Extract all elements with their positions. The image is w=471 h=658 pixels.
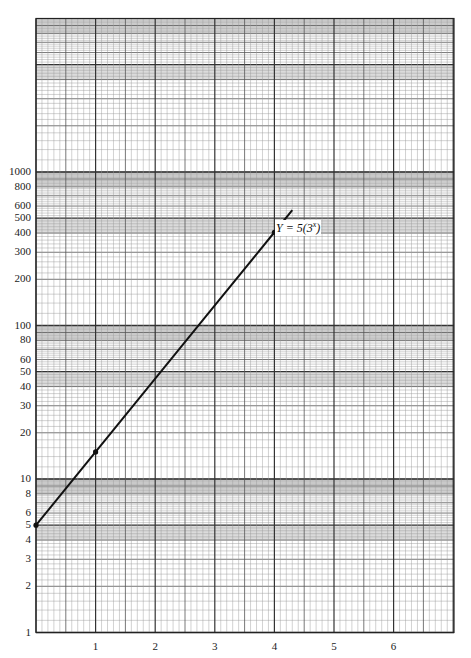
y-tick-label: 2 — [1, 580, 31, 591]
x-tick-label: 1 — [86, 641, 106, 652]
data-point-marker — [33, 523, 38, 528]
x-tick-label: 4 — [264, 641, 284, 652]
y-tick-label: 8 — [1, 488, 31, 499]
y-tick-label: 4 — [1, 534, 31, 545]
y-tick-label: 1 — [1, 627, 31, 638]
y-tick-label: 200 — [1, 273, 31, 284]
semilog-chart — [0, 0, 471, 658]
x-tick-label: 6 — [384, 641, 404, 652]
y-tick-label: 400 — [1, 227, 31, 238]
equation-close: ) — [316, 221, 320, 235]
equation-label: Y = 5(3x) — [275, 220, 321, 236]
y-tick-label: 40 — [1, 381, 31, 392]
y-tick-label: 60 — [1, 354, 31, 365]
y-tick-label: 100 — [1, 320, 31, 331]
y-tick-label: 800 — [1, 181, 31, 192]
equation-main: Y = 5(3 — [276, 221, 313, 235]
y-tick-label: 50 — [1, 366, 31, 377]
x-tick-label: 2 — [145, 641, 165, 652]
y-tick-label: 1000 — [1, 166, 31, 177]
y-tick-label: 10 — [1, 473, 31, 484]
x-tick-label: 3 — [205, 641, 225, 652]
y-tick-label: 6 — [1, 507, 31, 518]
y-tick-label: 600 — [1, 200, 31, 211]
y-tick-label: 5 — [1, 519, 31, 530]
y-tick-label: 3 — [1, 553, 31, 564]
data-point-marker — [93, 449, 98, 454]
y-tick-label: 20 — [1, 427, 31, 438]
y-tick-label: 300 — [1, 246, 31, 257]
y-tick-label: 30 — [1, 400, 31, 411]
y-tick-label: 80 — [1, 334, 31, 345]
x-tick-label: 5 — [324, 641, 344, 652]
series-line — [36, 210, 292, 525]
y-tick-label: 500 — [1, 212, 31, 223]
